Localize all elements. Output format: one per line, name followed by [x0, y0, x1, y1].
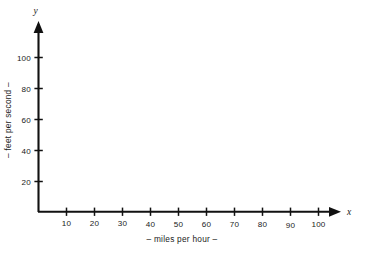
- x-tick-label: 80: [258, 220, 268, 229]
- y-tick-label: 100: [17, 54, 31, 63]
- x-tick-label: 30: [118, 219, 128, 228]
- y-axis-letter: y: [32, 6, 38, 16]
- x-axis-arrowhead: [329, 207, 341, 217]
- y-tick-label: 60: [22, 116, 32, 125]
- x-tick-label: 100: [311, 220, 325, 229]
- y-tick-label: 80: [22, 85, 32, 94]
- x-tick-label: 60: [202, 220, 212, 229]
- y-axis-arrowhead: [34, 21, 44, 33]
- x-axis-caption: – miles per hour –: [147, 234, 218, 244]
- x-tick-label: 20: [90, 219, 100, 228]
- x-tick-label: 70: [230, 220, 240, 229]
- x-tick-label: 90: [286, 221, 296, 230]
- x-tick-label: 40: [146, 220, 156, 229]
- coordinate-axes-figure: 10 20 30 40 50 60 70 80 90 100 20 40 60 …: [0, 0, 365, 253]
- x-axis-letter: x: [346, 207, 352, 217]
- chart-canvas: 10 20 30 40 50 60 70 80 90 100 20 40 60 …: [0, 0, 365, 253]
- x-tick-label: 10: [62, 219, 72, 228]
- y-tick-label: 20: [22, 178, 32, 187]
- x-tick-label: 50: [174, 220, 184, 229]
- y-tick-label: 40: [22, 147, 32, 156]
- y-axis-caption: – feet per second –: [3, 82, 13, 158]
